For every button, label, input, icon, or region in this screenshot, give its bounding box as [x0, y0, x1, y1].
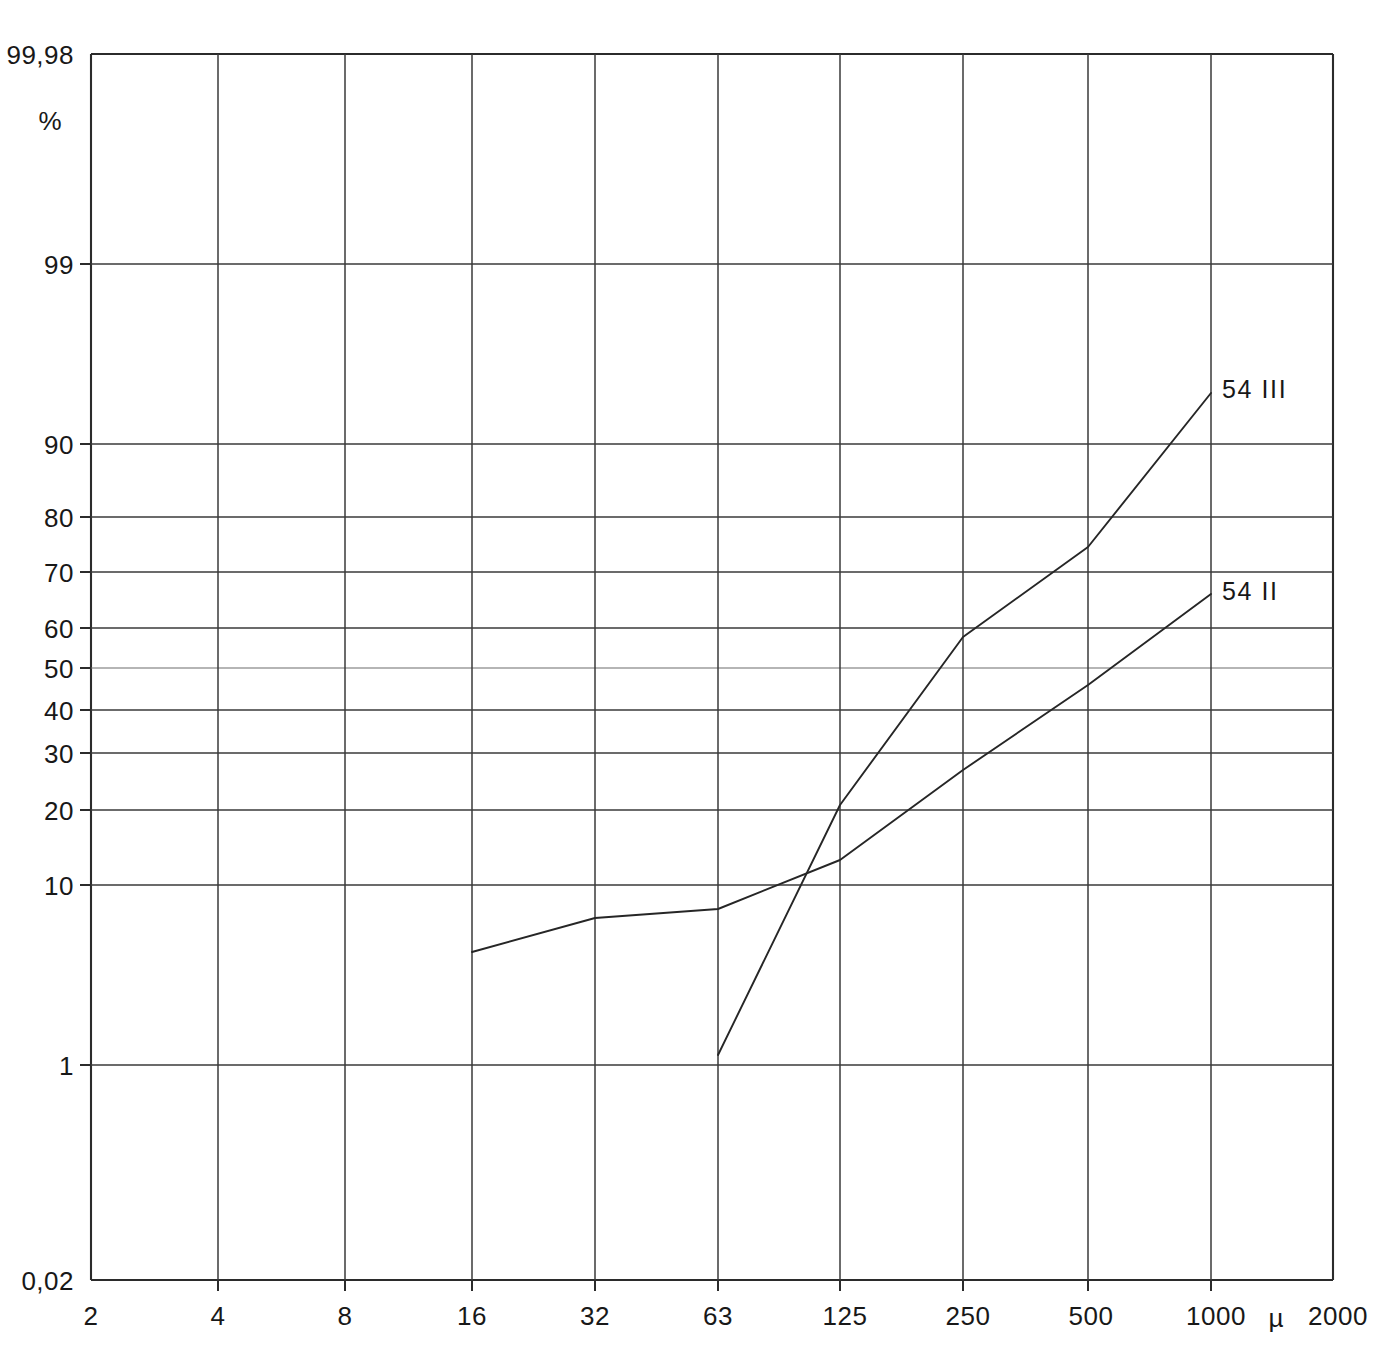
- x-tick-label-500: 500: [1069, 1301, 1114, 1331]
- x-tick-label-250: 250: [946, 1301, 991, 1331]
- y-axis-unit-label: %: [38, 106, 62, 136]
- x-tick-label-2000: 2000: [1308, 1301, 1368, 1331]
- x-axis-unit-label: µ: [1269, 1303, 1284, 1333]
- x-tick-label-1000: 1000: [1186, 1301, 1246, 1331]
- x-tick-label-8: 8: [338, 1301, 353, 1331]
- x-tick-label-4: 4: [211, 1301, 226, 1331]
- y-tick-label-40: 40: [44, 696, 74, 726]
- chart-container: 99,98 % 99 90 80 70 60 50 40 30 20 10 1 …: [0, 0, 1400, 1363]
- x-axis-labels: 2 4 8 16 32 63 125 250 500 1000 µ 2000: [84, 1301, 1368, 1333]
- y-tick-label-60: 60: [44, 614, 74, 644]
- probability-grading-chart: 99,98 % 99 90 80 70 60 50 40 30 20 10 1 …: [0, 0, 1400, 1363]
- x-tick-label-16: 16: [457, 1301, 487, 1331]
- x-tick-label-125: 125: [823, 1301, 868, 1331]
- y-axis-labels: 99,98 % 99 90 80 70 60 50 40 30 20 10 1 …: [6, 40, 74, 1296]
- plot-frame: [91, 54, 1333, 1280]
- y-tick-label-30: 30: [44, 739, 74, 769]
- y-tick-label-90: 90: [44, 430, 74, 460]
- x-tick-label-32: 32: [580, 1301, 610, 1331]
- y-tick-label-20: 20: [44, 796, 74, 826]
- y-tick-label-70: 70: [44, 558, 74, 588]
- x-axis-ticks: [218, 1280, 1211, 1291]
- y-tick-label-1: 1: [59, 1051, 74, 1081]
- y-axis-ticks: [80, 264, 91, 1065]
- y-tick-label-99: 99: [44, 250, 74, 280]
- y-tick-label-50: 50: [44, 654, 74, 684]
- series-label-54-iii: 54 III: [1222, 375, 1287, 403]
- y-tick-label-10: 10: [44, 871, 74, 901]
- x-tick-label-2: 2: [84, 1301, 99, 1331]
- y-tick-label-80: 80: [44, 503, 74, 533]
- x-tick-label-63: 63: [703, 1301, 733, 1331]
- y-tick-label-99-98: 99,98: [6, 40, 74, 70]
- series-label-54-ii: 54 II: [1222, 577, 1279, 605]
- y-tick-label-0-02: 0,02: [21, 1266, 74, 1296]
